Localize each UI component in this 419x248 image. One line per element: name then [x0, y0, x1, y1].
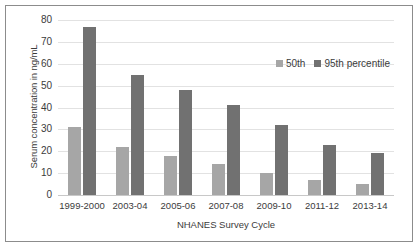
x-axis-ticks: 1999-20002003-042005-062007-082009-10201…: [58, 199, 394, 213]
bar-group: [250, 20, 298, 195]
bar[interactable]: [83, 27, 96, 195]
bar-group: [346, 20, 394, 195]
legend-swatch-icon: [276, 60, 283, 67]
bar-group: [298, 20, 346, 195]
bar[interactable]: [275, 125, 288, 195]
x-axis-tick-label: 1999-2000: [58, 199, 106, 213]
bar-group: [154, 20, 202, 195]
y-axis-tick-label: 20: [24, 146, 52, 156]
bar[interactable]: [260, 173, 273, 195]
y-axis-tick-label: 0: [24, 190, 52, 200]
bar-group: [58, 20, 106, 195]
bar[interactable]: [179, 90, 192, 195]
y-axis-tick-label: 70: [24, 37, 52, 47]
bar[interactable]: [116, 147, 129, 195]
bar[interactable]: [212, 164, 225, 195]
bar[interactable]: [371, 153, 384, 195]
x-axis-tick-label: 2003-04: [106, 199, 154, 213]
legend-label: 50th: [286, 58, 305, 69]
chart-frame: Serum concentration in ng/mL 01020304050…: [5, 5, 413, 242]
plot-inner: 01020304050607080: [58, 20, 394, 195]
legend-label: 95th percentile: [324, 58, 390, 69]
x-axis-tick-label: 2005-06: [154, 199, 202, 213]
x-axis-tick-label: 2013-14: [346, 199, 394, 213]
y-axis-tick-label: 80: [24, 15, 52, 25]
legend-entry[interactable]: 95th percentile: [314, 58, 390, 69]
y-axis-tick-label: 30: [24, 124, 52, 134]
legend-swatch-icon: [314, 60, 321, 67]
y-axis-tick-label: 40: [24, 103, 52, 113]
bar[interactable]: [131, 75, 144, 195]
plot-area: 01020304050607080: [58, 20, 394, 195]
x-axis-tick-label: 2007-08: [202, 199, 250, 213]
gridline: [58, 195, 394, 196]
x-axis-title: NHANES Survey Cycle: [58, 219, 394, 230]
bar-group: [106, 20, 154, 195]
y-axis-tick-label: 60: [24, 59, 52, 69]
bar[interactable]: [164, 156, 177, 195]
y-axis-tick-label: 50: [24, 81, 52, 91]
x-axis-tick-label: 2009-10: [250, 199, 298, 213]
legend-entry[interactable]: 50th: [276, 58, 305, 69]
x-axis-tick-label: 2011-12: [298, 199, 346, 213]
bar-group: [202, 20, 250, 195]
chart-figure: Serum concentration in ng/mL 01020304050…: [0, 0, 419, 248]
bar[interactable]: [227, 105, 240, 195]
y-axis-tick-label: 10: [24, 168, 52, 178]
bar[interactable]: [356, 184, 369, 195]
bar[interactable]: [68, 127, 81, 195]
bar[interactable]: [323, 145, 336, 195]
bar[interactable]: [308, 180, 321, 195]
chart-legend: 50th95th percentile: [276, 58, 390, 69]
bar-groups: [58, 20, 394, 195]
